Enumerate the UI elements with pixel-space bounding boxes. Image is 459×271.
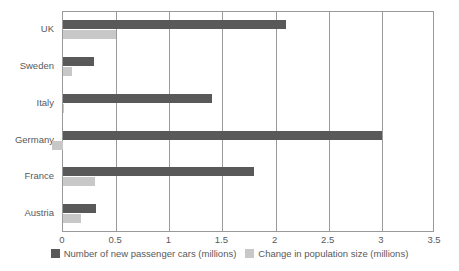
- x-axis-tick-label: 2.5: [321, 234, 334, 245]
- bar-group: [63, 159, 433, 196]
- bar: [52, 141, 63, 150]
- bar-group: [63, 12, 433, 49]
- legend-item[interactable]: Number of new passenger cars (millions): [51, 248, 237, 259]
- y-axis-tick-label: Austria: [24, 195, 54, 232]
- bar-group: [63, 86, 433, 123]
- x-axis-tick-label: 1.5: [215, 234, 228, 245]
- bar: [63, 67, 72, 76]
- bar: [63, 131, 382, 140]
- bar-group: [63, 196, 433, 233]
- bar: [63, 214, 81, 223]
- x-axis-tick-label: 3.5: [427, 234, 440, 245]
- bar: [63, 94, 212, 103]
- legend-item[interactable]: Change in population size (millions): [245, 248, 408, 259]
- bar-group: [63, 49, 433, 86]
- bar: [63, 57, 94, 66]
- x-axis-labels: 00.511.522.533.5: [0, 234, 459, 248]
- x-axis-tick-label: 0.5: [109, 234, 122, 245]
- x-axis-tick-label: 3: [378, 234, 383, 245]
- bar: [63, 30, 116, 39]
- bar: [63, 204, 96, 213]
- y-axis-tick-label: France: [24, 158, 54, 195]
- bar: [63, 167, 254, 176]
- legend-label: Number of new passenger cars (millions): [64, 248, 237, 259]
- y-axis-labels: UKSwedenItalyGermanyFranceAustria: [0, 11, 58, 232]
- y-axis-tick-label: Germany: [15, 122, 54, 159]
- bars-layer: [63, 12, 433, 231]
- legend-swatch-icon: [245, 249, 254, 258]
- bar-chart: UKSwedenItalyGermanyFranceAustria 00.511…: [0, 0, 459, 271]
- x-axis-tick-label: 1: [166, 234, 171, 245]
- chart-legend: Number of new passenger cars (millions)C…: [0, 248, 459, 259]
- bar: [63, 20, 286, 29]
- x-axis-tick-label: 0: [59, 234, 64, 245]
- y-axis-tick-label: Italy: [37, 85, 54, 122]
- plot-area: [62, 11, 434, 232]
- y-axis-tick-label: Sweden: [20, 48, 54, 85]
- bar: [63, 177, 95, 186]
- y-axis-tick-label: UK: [41, 11, 54, 48]
- legend-label: Change in population size (millions): [258, 248, 408, 259]
- bar: [63, 104, 64, 113]
- legend-swatch-icon: [51, 249, 60, 258]
- bar-group: [63, 123, 433, 160]
- x-axis-tick-label: 2: [272, 234, 277, 245]
